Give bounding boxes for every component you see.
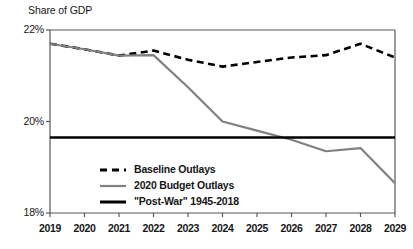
series-line bbox=[50, 44, 395, 184]
legend-label: "Post-War" 1945-2018 bbox=[134, 195, 239, 207]
plot-area bbox=[0, 0, 413, 249]
chart-container: Share of GDP 18%20%22% 20192020202120222… bbox=[0, 0, 413, 249]
series-line bbox=[50, 44, 395, 67]
legend-markers bbox=[100, 170, 126, 202]
legend-label: Baseline Outlays bbox=[134, 163, 215, 175]
x-axis-tick-marks bbox=[50, 213, 395, 217]
legend-label: 2020 Budget Outlays bbox=[134, 179, 234, 191]
x-axis-tick-label: 2029 bbox=[375, 222, 413, 234]
data-series-layer bbox=[50, 44, 395, 184]
